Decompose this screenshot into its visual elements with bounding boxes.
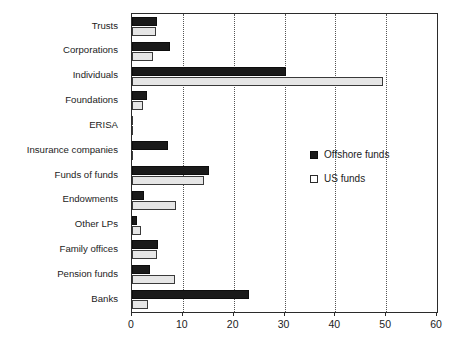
bar-usfunds <box>132 250 157 259</box>
y-axis-label-row: Endowments <box>0 187 124 212</box>
bar-usfunds <box>132 52 153 61</box>
x-axis-tick-label: 0 <box>128 319 134 330</box>
legend-label: US funds <box>324 174 365 184</box>
y-axis-label-row: Other LPs <box>0 212 124 237</box>
y-axis-category-labels: Trusts Corporations Individuals Foundati… <box>0 13 124 311</box>
x-axis-tick-label: 20 <box>227 319 239 330</box>
bar-usfunds <box>132 77 383 86</box>
y-axis-tick-label: ERISA <box>89 120 118 130</box>
x-axis-tick <box>182 312 183 316</box>
x-axis-tick <box>284 312 285 316</box>
bar-offshore <box>132 67 286 76</box>
x-axis: 0102030405060 <box>131 312 437 338</box>
bar-offshore <box>132 42 170 51</box>
bar-offshore <box>132 141 168 150</box>
bar-usfunds <box>132 226 141 235</box>
y-axis-label-row: Individuals <box>0 63 124 88</box>
x-axis-tick-label: 50 <box>379 319 391 330</box>
bar-group <box>132 237 437 262</box>
y-axis-tick-label: Corporations <box>63 45 118 55</box>
bar-usfunds <box>132 176 204 185</box>
x-axis-tick-label: 30 <box>278 319 290 330</box>
y-axis-tick-label: Family offices <box>60 244 118 254</box>
legend-item-us-funds: US funds <box>310 174 440 184</box>
y-axis-tick-label: Pension funds <box>57 269 118 279</box>
x-axis-tick-label: 40 <box>328 319 340 330</box>
y-axis-tick-label: Insurance companies <box>27 145 118 155</box>
x-axis-tick-label: 10 <box>176 319 188 330</box>
y-axis-tick-label: Funds of funds <box>55 170 118 180</box>
bar-offshore <box>132 116 133 125</box>
bar-usfunds <box>132 151 133 160</box>
bar-offshore <box>132 265 150 274</box>
x-axis-tick <box>436 312 437 316</box>
y-axis-label-row: Foundations <box>0 87 124 112</box>
x-axis-tick <box>334 312 335 316</box>
bar-usfunds <box>132 300 148 309</box>
bar-offshore <box>132 216 137 225</box>
bar-usfunds <box>132 27 156 36</box>
y-axis-label-row: Family offices <box>0 236 124 261</box>
bar-offshore <box>132 17 157 26</box>
y-axis-tick-label: Trusts <box>92 21 118 31</box>
bar-offshore <box>132 240 158 249</box>
chart-figure: Trusts Corporations Individuals Foundati… <box>0 0 457 348</box>
bar-offshore <box>132 91 147 100</box>
y-axis-tick-label: Individuals <box>73 70 118 80</box>
y-axis-tick-label: Banks <box>91 294 118 304</box>
legend-label: Offshore funds <box>324 150 389 160</box>
bar-usfunds <box>132 275 175 284</box>
x-axis-tick <box>233 312 234 316</box>
y-axis-tick-label: Other LPs <box>75 219 118 229</box>
chart-legend: Offshore funds US funds <box>310 150 440 198</box>
bar-group <box>132 262 437 287</box>
y-axis-label-row: Trusts <box>0 13 124 38</box>
x-axis-tick <box>385 312 386 316</box>
legend-item-offshore-funds: Offshore funds <box>310 150 440 160</box>
bar-usfunds <box>132 126 133 135</box>
bar-group <box>132 39 437 64</box>
bar-group <box>132 287 437 312</box>
y-axis-label-row: Corporations <box>0 38 124 63</box>
bar-group <box>132 213 437 238</box>
y-axis-tick-label: Foundations <box>65 95 118 105</box>
x-axis-tick <box>131 312 132 316</box>
y-axis-label-row: ERISA <box>0 112 124 137</box>
bar-offshore <box>132 166 209 175</box>
bar-usfunds <box>132 101 143 110</box>
y-axis-tick-label: Endowments <box>63 194 118 204</box>
legend-swatch-open-square-icon <box>310 175 318 183</box>
bar-group <box>132 14 437 39</box>
x-axis-tick-label: 60 <box>430 319 442 330</box>
bar-group <box>132 88 437 113</box>
bar-offshore <box>132 290 249 299</box>
y-axis-label-row: Funds of funds <box>0 162 124 187</box>
y-axis-label-row: Pension funds <box>0 261 124 286</box>
bar-group <box>132 64 437 89</box>
y-axis-label-row: Banks <box>0 286 124 311</box>
bar-group <box>132 113 437 138</box>
bar-usfunds <box>132 201 176 210</box>
bar-offshore <box>132 191 144 200</box>
y-axis-label-row: Insurance companies <box>0 137 124 162</box>
legend-swatch-filled-square-icon <box>310 151 318 159</box>
